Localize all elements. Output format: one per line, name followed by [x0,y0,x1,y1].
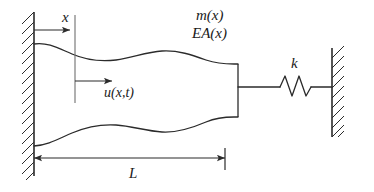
label-displacement: u(x,t) [104,86,134,100]
label-mass-per-length: m(x) [196,8,223,23]
label-spring-constant: k [291,56,298,71]
label-coordinate-x: x [62,10,69,25]
diagram-canvas [0,0,374,192]
label-length: L [129,166,137,181]
left-wall [22,12,34,180]
bar-bottom-profile [34,117,238,146]
label-axial-rigidity: EA(x) [192,26,227,41]
right-wall [332,46,344,137]
spring-coil [280,76,311,96]
coil-spring [238,76,332,96]
bar-vibration-diagram: x m(x) EA(x) u(x,t) k L [0,0,374,192]
variable-cross-section-bar [34,44,238,146]
left-wall-hatching [22,12,34,180]
right-wall-hatching [332,46,344,137]
bar-top-profile [34,44,238,64]
